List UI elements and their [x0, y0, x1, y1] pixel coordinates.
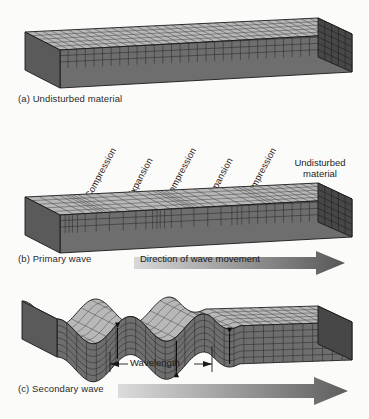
- seismic-wave-figure: (a) Undisturbed material Compression Exp…: [0, 0, 369, 419]
- panel-secondary-wave: Wavelength (c) Secondary wave: [0, 280, 369, 419]
- panel-primary-wave: Compression Expansion Compression Expans…: [0, 115, 369, 280]
- direction-arrow-c: [118, 377, 348, 405]
- block-c-left-face: [22, 301, 57, 357]
- block-c-graphic: [0, 280, 369, 419]
- caption-panel-b: (b) Primary wave: [18, 253, 91, 264]
- caption-panel-a: (a) Undisturbed material: [18, 93, 122, 104]
- direction-arrow-label-b: Direction of wave movement: [140, 253, 260, 264]
- caption-panel-c: (c) Secondary wave: [18, 383, 104, 394]
- panel-undisturbed-material: (a) Undisturbed material: [0, 0, 369, 115]
- wavelength-label: Wavelength: [130, 357, 180, 368]
